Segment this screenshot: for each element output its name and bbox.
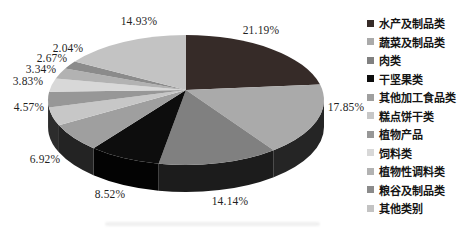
legend-swatch-icon — [367, 94, 374, 101]
legend-item-label: 糕点饼干类 — [379, 108, 434, 124]
legend-item-label: 肉类 — [379, 52, 401, 68]
legend-item: 粮谷及制品类 — [367, 181, 456, 200]
percent-label: 2.04% — [53, 42, 84, 54]
percent-label: 14.93% — [121, 15, 158, 27]
legend-item: 植物产品 — [367, 125, 456, 144]
percent-label: 17.85% — [328, 101, 365, 113]
legend-swatch-icon — [367, 131, 374, 138]
legend-item: 糕点饼干类 — [367, 107, 456, 126]
legend-swatch-icon — [367, 168, 374, 175]
legend-item: 肉类 — [367, 51, 456, 70]
legend-item: 植物性调料类 — [367, 162, 456, 181]
legend-swatch-icon — [367, 38, 374, 45]
pie-slice — [186, 35, 320, 90]
cropped-caption-artifact — [105, 222, 320, 226]
legend-item: 干坚果类 — [367, 70, 456, 89]
percent-label: 6.92% — [30, 153, 61, 165]
legend-item: 蔬菜及制品类 — [367, 33, 456, 52]
legend-item-label: 粮谷及制品类 — [379, 182, 445, 198]
legend-item-label: 水产及制品类 — [379, 15, 445, 31]
legend-item-label: 其他加工食品类 — [379, 89, 456, 105]
legend-swatch-icon — [367, 75, 374, 82]
legend-item-label: 干坚果类 — [379, 71, 423, 87]
percent-label: 4.57% — [14, 101, 45, 113]
legend-item: 水产及制品类 — [367, 14, 456, 33]
chart-canvas: 21.19% 17.85% 14.14% 8.52% 6.92% 4.57% 3… — [0, 0, 464, 231]
legend-item: 其他加工食品类 — [367, 88, 456, 107]
legend-item-label: 植物性调料类 — [379, 163, 445, 179]
legend-item: 其他类别 — [367, 199, 456, 218]
percent-label: 3.34% — [26, 63, 57, 75]
legend-item-label: 蔬菜及制品类 — [379, 34, 445, 50]
legend-swatch-icon — [367, 112, 374, 119]
legend-item: 饲料类 — [367, 144, 456, 163]
legend-swatch-icon — [367, 205, 374, 212]
legend-item-label: 饲料类 — [379, 145, 412, 161]
legend: 水产及制品类 蔬菜及制品类 肉类 干坚果类 其他加工食品类 糕点饼干类 植物产品 — [367, 14, 456, 218]
percent-label: 14.14% — [212, 195, 249, 207]
legend-item-label: 植物产品 — [379, 126, 423, 142]
legend-swatch-icon — [367, 57, 374, 64]
legend-swatch-icon — [367, 186, 374, 193]
legend-swatch-icon — [367, 149, 374, 156]
percent-label: 8.52% — [95, 188, 126, 200]
percent-label: 21.19% — [243, 24, 280, 36]
percent-label: 3.83% — [13, 75, 44, 87]
legend-item-label: 其他类别 — [379, 200, 423, 216]
legend-swatch-icon — [367, 20, 374, 27]
